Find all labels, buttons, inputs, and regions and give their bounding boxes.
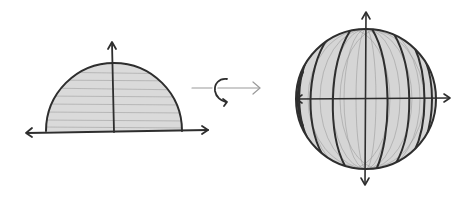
rotation-icon (215, 79, 229, 106)
rotation-transition (192, 79, 260, 106)
semicircle-figure (26, 42, 208, 137)
diagram-canvas (0, 0, 473, 200)
sphere-figure (296, 12, 450, 185)
